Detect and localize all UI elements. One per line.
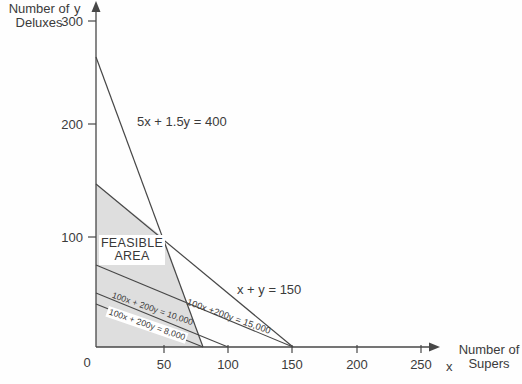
x-axis-title: Number of Supers — [458, 343, 520, 371]
y-tick-label-100: 100 — [53, 230, 83, 245]
x-axis-arrow — [429, 343, 440, 352]
x-axis-title-line1: Number of — [458, 343, 520, 357]
lp-graph: Number of Deluxes y 300 200 100 0 50 100… — [0, 0, 522, 384]
x-tick-label-100: 100 — [212, 357, 244, 372]
x-tick-label-50: 50 — [148, 357, 180, 372]
label-capacity-constraint: 5x + 1.5y = 400 — [137, 114, 227, 129]
x-tick-label-250: 250 — [405, 357, 437, 372]
x-axis-var-label: x — [446, 359, 453, 374]
label-assembly-constraint: x + y = 150 — [237, 282, 301, 297]
x-tick-label-0: 0 — [71, 355, 103, 370]
feasible-area-label: FEASIBLE AREA — [99, 235, 165, 265]
y-tick-label-200: 200 — [53, 117, 83, 132]
feasible-area-label-line2: AREA — [114, 250, 149, 264]
feasible-area-label-line1: FEASIBLE — [101, 237, 163, 251]
y-tick-label-300: 300 — [53, 14, 83, 29]
x-tick-label-150: 150 — [276, 357, 308, 372]
y-axis-arrow — [92, 1, 101, 12]
x-axis-title-line2: Supers — [458, 357, 520, 371]
x-tick-label-200: 200 — [341, 357, 373, 372]
